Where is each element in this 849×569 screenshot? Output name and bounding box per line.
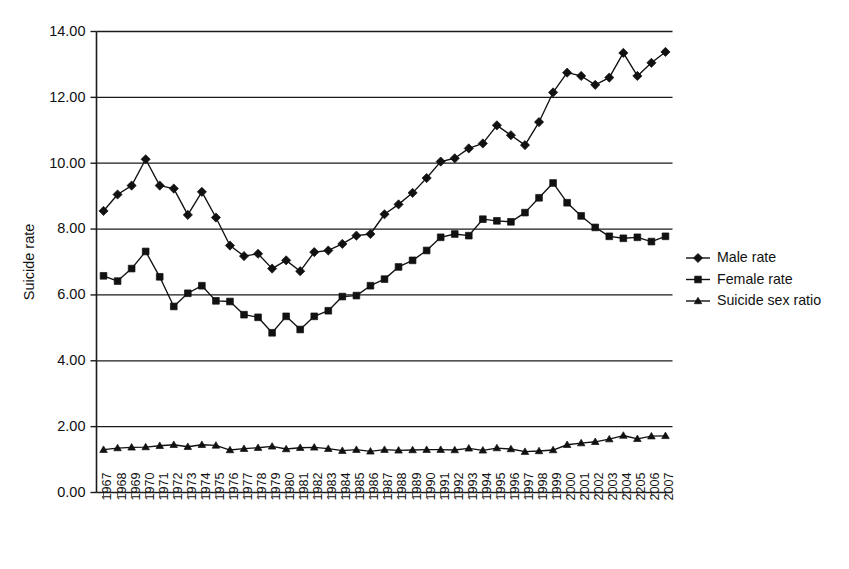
y-axis-ticks: 0.002.004.006.008.0010.0012.0014.00: [49, 23, 96, 500]
x-tick-label: 1980: [283, 472, 297, 500]
x-tick-label: 1986: [367, 472, 381, 500]
data-point-triangle: [465, 445, 473, 451]
data-point-square: [550, 180, 557, 187]
data-point-diamond: [183, 210, 192, 219]
data-point-square: [536, 194, 543, 201]
x-tick-label: 2205: [634, 472, 648, 500]
x-tick-label: 2003: [606, 472, 620, 500]
x-tick-label: 1983: [325, 472, 339, 500]
data-point-diamond: [211, 213, 220, 222]
x-tick-label: 1989: [410, 472, 424, 500]
data-point-square: [606, 233, 613, 240]
x-tick-label: 1984: [339, 472, 353, 500]
data-point-diamond: [169, 184, 178, 193]
data-point-triangle: [268, 443, 276, 449]
data-point-diamond: [450, 154, 459, 163]
data-point-diamond: [352, 231, 361, 240]
x-tick-label: 1974: [199, 472, 213, 500]
series-line: [104, 52, 666, 271]
x-tick-label: 1994: [480, 472, 494, 500]
x-tick-label: 1968: [115, 472, 129, 500]
x-tick-label: 1973: [185, 472, 199, 500]
data-point-square: [114, 278, 121, 285]
x-tick-label: 2002: [592, 472, 606, 500]
x-tick-label: 2001: [578, 472, 592, 500]
data-point-diamond: [563, 68, 572, 77]
legend-item-suicide-sex-ratio: Suicide sex ratio: [686, 292, 821, 308]
legend-marker-square: [695, 276, 702, 283]
x-tick-label: 1999: [550, 472, 564, 500]
data-point-square: [451, 231, 458, 238]
data-point-diamond: [548, 88, 557, 97]
chart-legend: Male rateFemale rateSuicide sex ratio: [686, 249, 821, 308]
data-point-square: [128, 265, 135, 272]
data-point-square: [479, 216, 486, 223]
data-point-square: [325, 307, 332, 314]
data-point-diamond: [591, 80, 600, 89]
data-point-square: [156, 273, 163, 280]
data-point-square: [508, 218, 515, 225]
legend-item-male-rate: Male rate: [686, 249, 776, 265]
y-tick-label: 4.00: [57, 352, 85, 368]
data-point-diamond: [577, 71, 586, 80]
legend-item-female-rate: Female rate: [686, 271, 793, 287]
data-point-square: [213, 298, 220, 305]
series-suicide-sex-ratio: [100, 432, 669, 455]
x-tick-label: 1972: [171, 472, 185, 500]
x-tick-label: 1990: [424, 472, 438, 500]
data-point-square: [170, 303, 177, 310]
legend-label: Male rate: [717, 249, 776, 265]
x-tick-label: 1981: [297, 472, 311, 500]
x-tick-label: 1997: [522, 472, 536, 500]
data-point-diamond: [380, 210, 389, 219]
data-point-square: [648, 238, 655, 245]
data-point-square: [339, 293, 346, 300]
y-tick-label: 8.00: [57, 220, 85, 236]
x-tick-label: 1996: [508, 472, 522, 500]
series-male-rate: [99, 47, 670, 276]
x-tick-label: 1971: [157, 472, 171, 500]
data-point-diamond: [605, 73, 614, 82]
x-tick-label: 1988: [395, 472, 409, 500]
data-point-diamond: [534, 117, 543, 126]
data-point-square: [199, 282, 206, 289]
x-tick-label: 1985: [353, 472, 367, 500]
data-point-square: [522, 209, 529, 216]
data-point-diamond: [310, 248, 319, 257]
x-tick-label: 2006: [648, 472, 662, 500]
data-point-square: [437, 234, 444, 241]
x-tick-label: 1991: [438, 472, 452, 500]
data-point-diamond: [619, 48, 628, 57]
data-point-square: [227, 298, 234, 305]
y-tick-label: 0.00: [57, 484, 85, 500]
data-point-diamond: [127, 181, 136, 190]
legend-marker-diamond: [693, 253, 702, 262]
figure-container: 0.002.004.006.008.0010.0012.0014.00 1967…: [0, 0, 849, 569]
data-point-square: [634, 234, 641, 241]
data-point-triangle: [170, 441, 178, 447]
x-tick-label: 1992: [452, 472, 466, 500]
y-tick-label: 10.00: [49, 155, 85, 171]
x-tick-label: 1978: [255, 472, 269, 500]
x-tick-label: 2007: [662, 472, 676, 500]
x-tick-label: 1993: [466, 472, 480, 500]
data-point-square: [184, 290, 191, 297]
x-tick-label: 1975: [213, 472, 227, 500]
data-point-diamond: [506, 131, 515, 140]
data-point-square: [494, 217, 501, 224]
data-point-diamond: [324, 246, 333, 255]
data-point-square: [241, 311, 248, 318]
data-point-square: [662, 233, 669, 240]
data-point-square: [255, 314, 262, 321]
data-point-square: [100, 272, 107, 279]
series-female-rate: [100, 180, 669, 337]
data-point-square: [409, 257, 416, 264]
data-point-square: [311, 313, 318, 320]
data-point-diamond: [464, 144, 473, 153]
y-axis-title: Suicide rate: [21, 224, 37, 301]
data-point-square: [564, 199, 571, 206]
data-point-triangle: [353, 446, 361, 452]
data-point-diamond: [141, 155, 150, 164]
x-tick-label: 1995: [494, 472, 508, 500]
x-tick-label: 1987: [381, 472, 395, 500]
